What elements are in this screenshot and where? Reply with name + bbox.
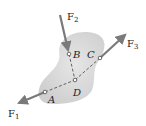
label-D: D	[72, 87, 81, 98]
label-F3: F3	[127, 38, 138, 51]
force-diagram: A B C D F1 F2 F3	[0, 0, 146, 126]
label-C: C	[87, 49, 95, 60]
point-B	[67, 52, 71, 56]
point-C	[98, 56, 102, 60]
label-F1: F1	[8, 108, 19, 121]
label-A: A	[47, 94, 55, 105]
label-F2: F2	[67, 11, 78, 24]
point-D	[73, 78, 77, 82]
point-A	[43, 90, 47, 94]
label-B: B	[72, 49, 80, 60]
